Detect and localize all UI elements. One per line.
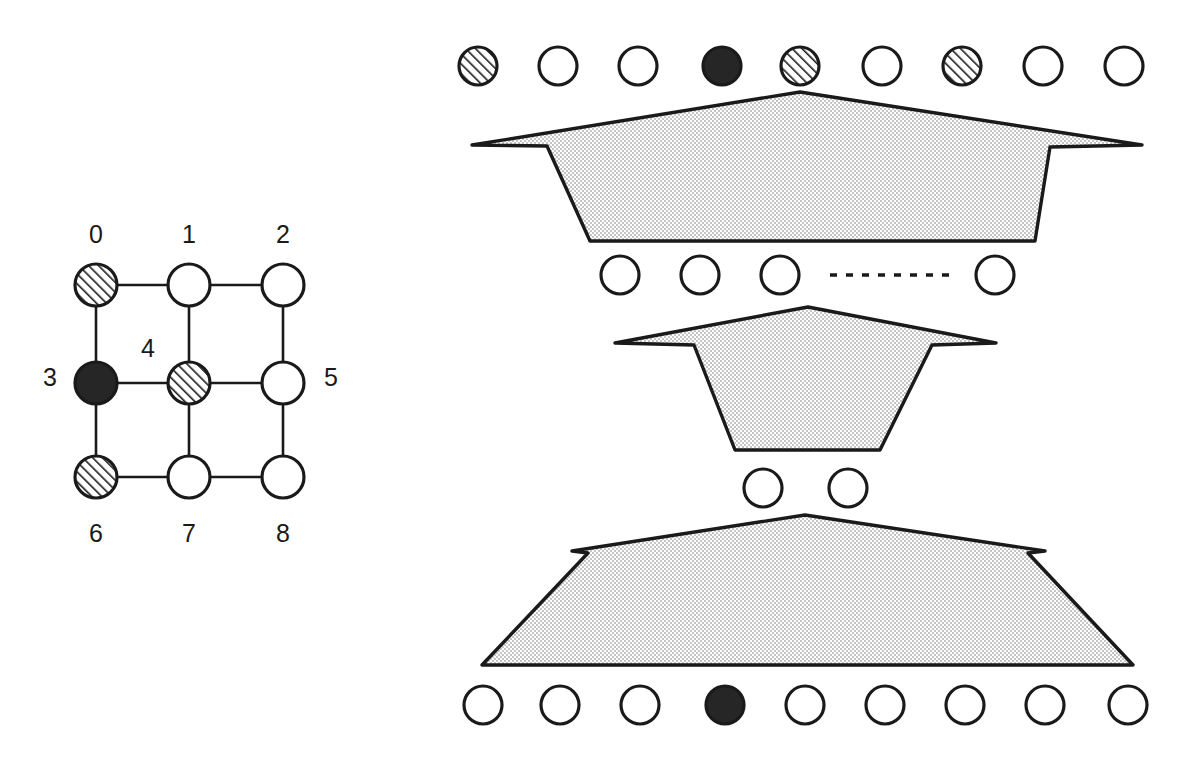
grid-label-6: 6 bbox=[89, 519, 103, 547]
grid-node-5[interactable] bbox=[262, 362, 304, 404]
layer1-node-7[interactable] bbox=[943, 47, 981, 85]
grid-label-7: 7 bbox=[182, 519, 196, 547]
layer3-node-2[interactable] bbox=[829, 469, 867, 507]
layer1-node-1[interactable] bbox=[459, 47, 497, 85]
diagram-canvas: 0 1 2 3 4 5 6 7 8 bbox=[0, 0, 1195, 765]
grid-label-3: 3 bbox=[43, 363, 57, 391]
grid-node-1[interactable] bbox=[168, 264, 210, 306]
layer2-node-4[interactable] bbox=[976, 256, 1014, 294]
grid-label-4: 4 bbox=[141, 334, 155, 362]
grid-node-3[interactable] bbox=[75, 362, 117, 404]
layer-4-bottom-node-row bbox=[464, 686, 1147, 724]
grid-label-8: 8 bbox=[276, 519, 290, 547]
grid-label-0: 0 bbox=[89, 220, 103, 248]
grid-node-0[interactable] bbox=[75, 264, 117, 306]
grid-node-6[interactable] bbox=[75, 456, 117, 498]
grid-label-5: 5 bbox=[324, 363, 338, 391]
layer1-node-3[interactable] bbox=[619, 47, 657, 85]
grid-label-2: 2 bbox=[276, 220, 290, 248]
grid-node-4[interactable] bbox=[168, 362, 210, 404]
layer-1-top-node-row bbox=[459, 47, 1143, 85]
grid-node-7[interactable] bbox=[168, 456, 210, 498]
grid-node-8[interactable] bbox=[262, 456, 304, 498]
layer4-node-9[interactable] bbox=[1109, 686, 1147, 724]
layer1-node-5[interactable] bbox=[781, 47, 819, 85]
layer4-node-3[interactable] bbox=[621, 686, 659, 724]
layer4-node-1[interactable] bbox=[464, 686, 502, 724]
layer4-node-5[interactable] bbox=[786, 686, 824, 724]
layer4-node-8[interactable] bbox=[1026, 686, 1064, 724]
layer2-node-3[interactable] bbox=[761, 256, 799, 294]
layer2-node-2[interactable] bbox=[681, 256, 719, 294]
layer1-node-6[interactable] bbox=[863, 47, 901, 85]
grid-label-1: 1 bbox=[182, 220, 196, 248]
layer3-node-1[interactable] bbox=[744, 469, 782, 507]
layer4-node-7[interactable] bbox=[946, 686, 984, 724]
layer1-node-4[interactable] bbox=[703, 47, 741, 85]
grid-node-2[interactable] bbox=[262, 264, 304, 306]
layer4-node-2[interactable] bbox=[541, 686, 579, 724]
layer1-node-2[interactable] bbox=[539, 47, 577, 85]
layer4-node-6[interactable] bbox=[866, 686, 904, 724]
layer2-node-1[interactable] bbox=[601, 256, 639, 294]
layer1-node-9[interactable] bbox=[1105, 47, 1143, 85]
layer4-node-4[interactable] bbox=[706, 686, 744, 724]
figure-root: 0 1 2 3 4 5 6 7 8 bbox=[0, 0, 1195, 765]
layer1-node-8[interactable] bbox=[1024, 47, 1062, 85]
grid-node-group bbox=[75, 264, 304, 498]
